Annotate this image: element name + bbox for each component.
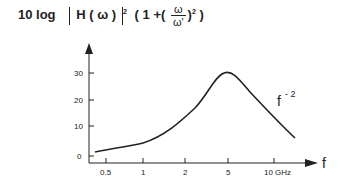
y-tick-label: 30	[74, 69, 83, 78]
x-tick-label: 2	[183, 168, 188, 177]
x-tick-label: 5	[226, 168, 231, 177]
slope-annotation-base: f	[277, 93, 281, 109]
slope-annotation-exponent: - 2	[285, 89, 296, 99]
x-tick-label: 10 GHz	[264, 168, 291, 177]
x-axis-arrow-icon	[305, 159, 318, 167]
response-curve	[95, 72, 295, 152]
y-ticks: 0 10 20 30	[74, 69, 94, 161]
chart-svg: 0 10 20 30 0.5 1 2 5 10 GHz f - 2 f	[0, 0, 343, 185]
y-tick-label: 0	[77, 152, 82, 161]
x-axis-label: f	[322, 155, 326, 171]
y-tick-label: 10	[74, 122, 83, 131]
y-axis-arrow-icon	[85, 43, 93, 54]
x-ticks: 0.5 1 2 5 10 GHz	[100, 158, 291, 177]
x-tick-label: 1	[141, 168, 146, 177]
x-tick-label: 0.5	[100, 168, 112, 177]
y-tick-label: 20	[74, 96, 83, 105]
